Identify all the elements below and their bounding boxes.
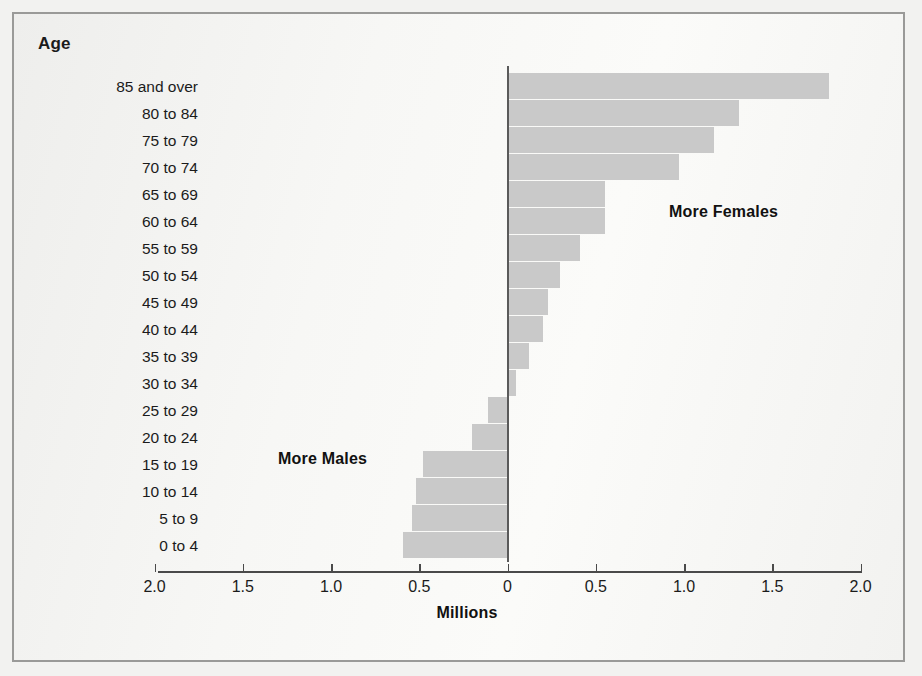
zero-axis-line: [507, 66, 509, 562]
bar-series: [0, 73, 922, 558]
x-axis-tick: [331, 564, 333, 572]
annotation-more-males: More Males: [278, 450, 367, 468]
x-axis-tick: [155, 564, 157, 572]
bar: [508, 370, 517, 396]
x-axis-title: Millions: [0, 604, 922, 622]
x-axis-tick-label: 1.0: [320, 578, 342, 596]
annotation-more-females: More Females: [669, 203, 778, 221]
x-axis-title-text: Millions: [436, 604, 497, 622]
x-axis-tick-label: 2.0: [143, 578, 165, 596]
bar: [508, 343, 529, 369]
population-pyramid-chart: Age 85 and over80 to 8475 to 7970 to 746…: [0, 0, 922, 676]
bar: [416, 478, 508, 504]
x-axis-tick: [684, 564, 686, 572]
bar: [508, 289, 549, 315]
figure: Age 85 and over80 to 8475 to 7970 to 746…: [0, 0, 922, 676]
bar: [472, 424, 507, 450]
bar: [508, 100, 739, 126]
x-axis-tick-label: 0.5: [408, 578, 430, 596]
bar: [508, 181, 605, 207]
bar: [412, 505, 507, 531]
bar: [508, 235, 580, 261]
bar: [508, 262, 561, 288]
x-axis-tick-label: 0: [503, 578, 512, 596]
x-axis-tick-label: 1.0: [673, 578, 695, 596]
x-axis-tick-label: 0.5: [585, 578, 607, 596]
bar: [403, 532, 507, 558]
bar: [508, 127, 715, 153]
bar: [423, 451, 508, 477]
x-axis-tick: [772, 564, 774, 572]
x-axis-tick-label: 1.5: [761, 578, 783, 596]
bar: [508, 208, 605, 234]
x-axis-tick-label: 2.0: [849, 578, 871, 596]
bar: [508, 154, 679, 180]
x-axis-tick: [419, 564, 421, 572]
x-axis-tick: [596, 564, 598, 572]
bar: [508, 316, 543, 342]
bar: [488, 397, 507, 423]
bar: [508, 73, 829, 99]
y-axis-title: Age: [38, 34, 71, 54]
x-axis-line: [158, 571, 862, 573]
x-axis-tick: [508, 564, 510, 572]
x-axis-tick: [861, 564, 863, 572]
x-axis-tick-label: 1.5: [232, 578, 254, 596]
x-axis-tick: [243, 564, 245, 572]
